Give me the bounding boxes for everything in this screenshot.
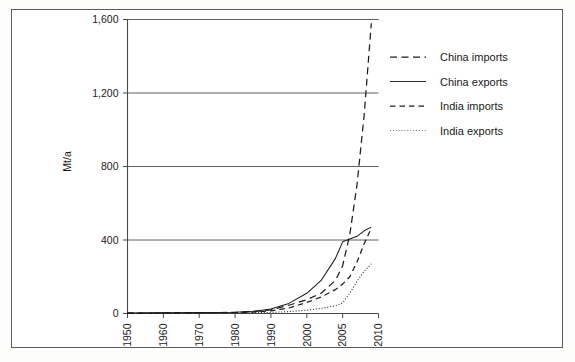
series-line-india-exports — [128, 264, 372, 313]
x-tick-label-2010: 2010 — [372, 323, 384, 347]
y-tick-label-1200: 1,200 — [92, 87, 118, 99]
legend-label: China imports — [440, 51, 508, 63]
x-tick-label-1980: 1980 — [229, 323, 241, 347]
legend-label: China exports — [440, 76, 508, 88]
y-tick-label-800: 800 — [101, 160, 119, 172]
y-tick-label-1600: 1,600 — [92, 13, 118, 25]
x-tick-label-1990: 1990 — [265, 323, 277, 347]
tick-marks — [123, 20, 379, 319]
y-axis-tick-labels: 04008001,2001,600 — [92, 13, 118, 319]
y-axis-title-label: Mt/a — [61, 151, 73, 172]
figure-container: 19501960197019801990200020052010 0400800… — [0, 0, 575, 362]
x-tick-label-2005: 2005 — [336, 323, 348, 347]
y-tick-label-400: 400 — [101, 234, 119, 246]
legend-label: India exports — [440, 125, 503, 137]
x-tick-label-1970: 1970 — [193, 323, 205, 347]
series-line-india-imports — [128, 228, 372, 313]
legend-item-india-imports[interactable]: India imports — [390, 100, 503, 112]
x-tick-label-1950: 1950 — [121, 323, 133, 347]
chart-legend[interactable]: China importsChina exportsIndia importsI… — [390, 51, 508, 137]
gridlines — [128, 20, 379, 241]
line-chart: 19501960197019801990200020052010 0400800… — [0, 0, 575, 362]
y-axis-title: Mt/a — [61, 151, 73, 172]
series-lines — [128, 23, 372, 313]
x-tick-label-2000: 2000 — [301, 323, 313, 347]
legend-item-china-imports[interactable]: China imports — [390, 51, 508, 63]
legend-item-india-exports[interactable]: India exports — [390, 125, 503, 137]
x-tick-label-1960: 1960 — [157, 323, 169, 347]
series-line-china-imports — [128, 23, 372, 313]
x-axis-tick-labels: 19501960197019801990200020052010 — [121, 323, 384, 347]
legend-item-china-exports[interactable]: China exports — [390, 76, 508, 88]
legend-label: India imports — [440, 100, 503, 112]
y-tick-label-0: 0 — [113, 307, 119, 319]
